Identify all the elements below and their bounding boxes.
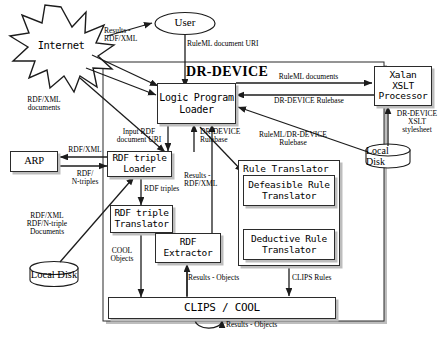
edge-label-results-objects-loop: Results - Objects <box>226 321 298 329</box>
edge-label-rdfxml-documents: RDF/XML documents <box>18 96 70 112</box>
clips-cool-label: CLIPS / COOL <box>109 302 335 315</box>
rule-translator-label: Rule Translator <box>243 163 329 174</box>
defeasible-rule-translator-box[interactable]: Defeasible Rule Translator <box>243 175 335 206</box>
edge-label-rdfxml-arp: RDF/XML <box>63 146 107 154</box>
edge-label-dr-device-xslt-stylesheet: DR-DEVICE XSLT stylesheet <box>392 110 442 134</box>
rdf-triple-loader-box[interactable]: RDF triple Loader <box>107 151 172 177</box>
edge-label-input-rdf-document-uri: Input RDF document URI <box>111 128 167 144</box>
defeasible-rule-translator-label: Defeasible Rule Translator <box>244 180 334 202</box>
xalan-xslt-processor-box[interactable]: Xalan XSLT Processor <box>374 66 432 106</box>
edge-label-rdfxml-ntriple-documents: RDF/XML RDF/N-triple Documents <box>15 212 79 236</box>
rdf-extractor-box[interactable]: RDF Extractor <box>155 233 221 263</box>
rdf-triple-translator-box[interactable]: RDF triple Translator <box>110 205 173 233</box>
arp-label: ARP <box>11 155 57 167</box>
edge-label-cool-objects: COOL Objects <box>104 247 140 263</box>
xalan-xslt-processor-label: Xalan XSLT Processor <box>375 70 431 103</box>
edge-label-results-rdfxml-mid: Results - RDF/XML <box>184 172 222 188</box>
local-disk-left: Local Disk <box>30 264 78 285</box>
edge-label-dr-device-rulebase-mid: DR-DEVICE Rulebase <box>200 128 248 144</box>
clips-cool-box[interactable]: CLIPS / COOL <box>108 297 336 319</box>
edge-label-dr-device-rulebase-top: DR-DEVICE Rulebase <box>263 97 355 105</box>
local-disk-right-label: Local Disk <box>366 145 410 167</box>
edge-label-clips-rules: CLIPS Rules <box>292 274 348 282</box>
user-label: User <box>155 16 215 28</box>
rdf-triple-loader-label: RDF triple Loader <box>108 153 171 175</box>
rdf-extractor-label: RDF Extractor <box>156 237 220 259</box>
logic-program-loader-box[interactable]: Logic Program Loader <box>157 83 236 124</box>
page-title: DR-DEVICE <box>186 64 268 80</box>
deductive-rule-translator-box[interactable]: Deductive Rule Translator <box>243 229 335 260</box>
edge-label-rdf-ntriples: RDF/ N-triples <box>64 170 106 186</box>
edge-label-results-objects-extractor: Results - Objects <box>188 274 260 282</box>
edge-label-results-rdfxml-user: Results - RDF/XML <box>104 27 152 43</box>
deductive-rule-translator-label: Deductive Rule Translator <box>244 234 334 256</box>
edge-label-ruleml-document-uri: RuleML document URI <box>187 40 279 48</box>
local-disk-right: Local Disk <box>366 146 410 166</box>
local-disk-left-label: Local Disk <box>31 269 77 280</box>
rdf-triple-translator-label: RDF triple Translator <box>111 208 172 230</box>
logic-program-loader-label: Logic Program Loader <box>158 92 235 115</box>
arp-box[interactable]: ARP <box>10 151 58 172</box>
edge-label-ruleml-dr-device-rulebase: RuleML/DR-DEVICE Rulebase <box>251 131 335 147</box>
dr-device-architecture-diagram: Internet User Local Disk Local Disk DR-D… <box>0 0 442 349</box>
internet-label: Internet <box>28 39 94 51</box>
edge-label-ruleml-documents: RuleML documents <box>266 73 351 81</box>
